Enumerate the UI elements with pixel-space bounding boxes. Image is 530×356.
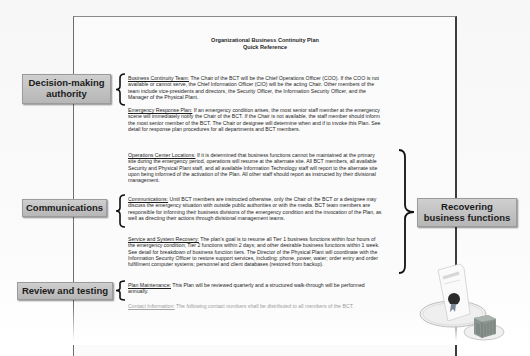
callout-communications: Communications <box>22 199 107 217</box>
title-line-1: Organizational Business Continuity Plan <box>73 37 457 44</box>
title-line-2: Quick Reference <box>73 44 457 51</box>
page-fade-overlay <box>60 305 470 345</box>
section-heading: Service and System Recovery: <box>128 236 199 242</box>
callout-decision-making-authority: Decision-making authority <box>22 74 111 104</box>
document-title: Organizational Business Continuity Plan … <box>73 37 457 51</box>
section-communications: Communications: Until BCT members are in… <box>128 196 383 221</box>
left-brace-icon <box>114 73 126 106</box>
callout-recovering-business-functions: Recovering business functions <box>417 198 517 227</box>
section-service-system-recovery: Service and System Recovery: The plan's … <box>128 236 383 267</box>
right-brace-icon <box>398 149 416 274</box>
certificate-with-building-icon <box>418 262 508 345</box>
section-heading: Business Continuity Team: <box>128 75 189 81</box>
callout-line: Recovering <box>424 202 511 213</box>
left-brace-icon <box>114 194 126 228</box>
section-heading: Communications: <box>128 196 168 202</box>
section-heading: Emergency Response Plan: <box>128 107 192 113</box>
section-heading: Plan Maintenance: <box>128 282 171 288</box>
callout-review-and-testing: Review and testing <box>17 282 113 300</box>
section-heading: Operations Center Locations: <box>128 152 195 158</box>
section-operations-center-locations: Operations Center Locations: If it is de… <box>128 152 383 183</box>
left-brace-icon <box>114 280 126 301</box>
section-business-continuity-team: Business Continuity Team: The Chair of t… <box>128 75 383 100</box>
section-emergency-response-plan: Emergency Response Plan: If an emergency… <box>128 107 383 132</box>
callout-line: business functions <box>424 213 511 224</box>
callout-line: authority <box>28 89 104 100</box>
section-plan-maintenance: Plan Maintenance: This Plan will be revi… <box>128 282 383 295</box>
callout-label: Communications <box>26 203 103 214</box>
callout-label: Review and testing <box>22 286 108 297</box>
